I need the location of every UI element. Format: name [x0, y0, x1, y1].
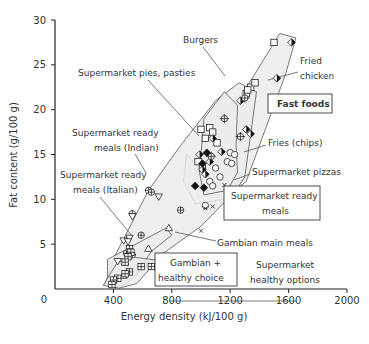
y-axis-label: Fat content (g/100 g) [8, 102, 19, 208]
data-point [199, 229, 203, 233]
x-ticks: 400800120016002000 [104, 289, 360, 306]
label-fast-foods: Fast foods [277, 99, 330, 109]
data-point [252, 80, 258, 86]
label-indian-1: Supermarket ready [72, 128, 159, 138]
data-point [245, 87, 251, 93]
label-healthy-2: healthy options [250, 275, 320, 285]
label-chicken: chicken [300, 71, 334, 81]
label-italian-1: Supermarket ready [60, 170, 147, 180]
y-tick-label: 20 [33, 104, 46, 115]
y-tick-label: 0 [41, 294, 47, 305]
data-point [122, 259, 128, 265]
data-point [138, 263, 144, 269]
data-point [148, 263, 154, 269]
label-fried: Fried [300, 56, 322, 66]
scatter-chart: 051015202530 400800120016002000 Energy d… [0, 0, 369, 344]
y-tick-label: 5 [40, 239, 46, 250]
x-tick-label: 1200 [217, 295, 242, 306]
label-fries: Fries (chips) [268, 138, 322, 148]
data-point [214, 140, 220, 146]
x-axis-label: Energy density (kJ/100 g) [121, 311, 248, 322]
data-point [198, 126, 204, 132]
data-point [271, 39, 277, 45]
x-tick-label: 1600 [276, 295, 301, 306]
x-tick-label: 800 [162, 295, 181, 306]
data-point [122, 271, 128, 277]
label-italian-2: meals (Italian) [73, 185, 138, 195]
y-tick-label: 10 [33, 194, 46, 205]
x-tick-label: 2000 [334, 295, 359, 306]
data-point [202, 135, 208, 141]
data-point [209, 183, 215, 189]
data-point [138, 232, 144, 238]
label-gambian-1: Gambian + [170, 258, 221, 268]
label-pies: Supermarket pies, pasties [78, 68, 196, 78]
y-tick-label: 30 [33, 15, 46, 26]
label-pizzas: Supermarket pizzas [252, 167, 341, 177]
x-tick-label: 400 [104, 295, 123, 306]
label-burgers: Burgers [183, 35, 218, 45]
data-point [212, 165, 218, 171]
label-gambian-2: healthy choice [158, 273, 224, 283]
data-point [228, 160, 234, 166]
data-point [231, 151, 237, 157]
data-point [217, 174, 223, 180]
label-indian-2: meals (Indian) [94, 143, 159, 153]
data-point [177, 207, 183, 213]
y-tick-label: 15 [33, 149, 46, 160]
label-healthy-1: Supermarket [256, 260, 315, 270]
label-ready-1: Supermarket ready [231, 191, 318, 201]
label-gambian-main: Gambian main meals [217, 238, 313, 248]
label-ready-2: meals [262, 206, 289, 216]
y-tick-label: 25 [33, 59, 46, 70]
data-point [148, 189, 154, 195]
y-ticks: 051015202530 [33, 15, 55, 306]
data-point [109, 281, 115, 287]
